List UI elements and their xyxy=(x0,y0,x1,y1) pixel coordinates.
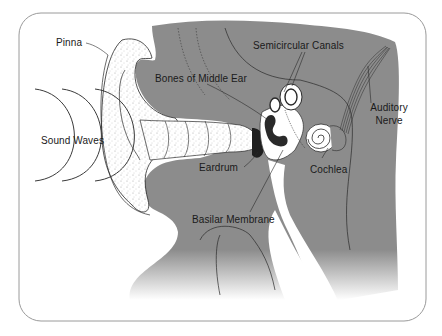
label-auditory-nerve-line1: Auditory xyxy=(364,103,414,113)
label-auditory-nerve-line2: Nerve xyxy=(364,116,414,126)
label-basilar-membrane: Basilar Membrane xyxy=(192,215,275,225)
label-bones-of-middle-ear: Bones of Middle Ear xyxy=(155,74,247,84)
label-pinna: Pinna xyxy=(56,38,82,48)
ear-anatomy-diagram: Pinna Sound Waves Bones of Middle Ear Se… xyxy=(0,0,442,336)
label-sound-waves: Sound Waves xyxy=(41,136,104,146)
cochlea-shape xyxy=(306,124,346,152)
label-eardrum: Eardrum xyxy=(199,163,238,173)
label-semicircular-canals: Semicircular Canals xyxy=(253,41,344,51)
label-cochlea: Cochlea xyxy=(310,165,347,175)
label-auditory-nerve: Auditory Nerve xyxy=(364,103,414,126)
